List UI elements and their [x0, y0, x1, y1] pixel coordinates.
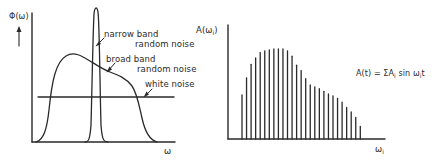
- right-x-label-sub: i: [382, 148, 384, 155]
- amplitude-bars: [242, 49, 360, 139]
- formula-part3: t: [422, 69, 425, 78]
- white-noise-label: white noise: [145, 80, 195, 89]
- right-y-label-main: A(ω: [196, 25, 213, 35]
- left-x-axis-label: ω: [164, 147, 171, 156]
- formula-part1: A(t) = ΣA: [356, 69, 394, 78]
- narrow-band-label-1: narrow band: [104, 30, 159, 39]
- right-x-axis-label: ωi: [375, 145, 384, 155]
- broad-band-label-2: random noise: [137, 65, 196, 74]
- formula-part2: sin ω: [396, 69, 420, 78]
- right-y-label-end: ): [214, 25, 217, 35]
- broad-band-label-1: broad band: [106, 55, 156, 64]
- left-y-axis-label: Φ(ω): [9, 13, 29, 21]
- formula-label: A(t) = ΣAi sin ωit: [356, 70, 425, 79]
- narrow-band-label-2: random noise: [135, 40, 194, 49]
- right-y-axis-label: A(ωi): [196, 26, 218, 36]
- up-arrowhead-icon: [17, 26, 22, 32]
